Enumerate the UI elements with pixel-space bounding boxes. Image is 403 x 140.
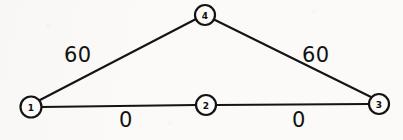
graph-svg: 1 2 3 4: [0, 0, 403, 140]
node-4-label: 4: [202, 11, 208, 21]
edge-1-2-weight-label: 0: [119, 110, 133, 131]
edge-4-3-weight-label: 60: [302, 45, 330, 66]
node-1-label: 1: [28, 103, 34, 113]
edge-1-2[interactable]: [41, 105, 196, 107]
node-1[interactable]: 1: [21, 97, 42, 118]
edge-4-3[interactable]: [215, 20, 371, 97]
edge-2-3[interactable]: [216, 104, 369, 105]
node-2-label: 2: [203, 101, 209, 111]
graph-diagram-canvas: 1 2 3 4 60 60 0 0: [0, 0, 403, 140]
node-4[interactable]: 4: [195, 5, 215, 25]
node-2[interactable]: 2: [196, 95, 216, 115]
node-3-label: 3: [376, 100, 382, 110]
edge-2-3-weight-label: 0: [292, 110, 306, 131]
edge-1-4-weight-label: 60: [64, 45, 92, 66]
node-3[interactable]: 3: [369, 94, 389, 114]
